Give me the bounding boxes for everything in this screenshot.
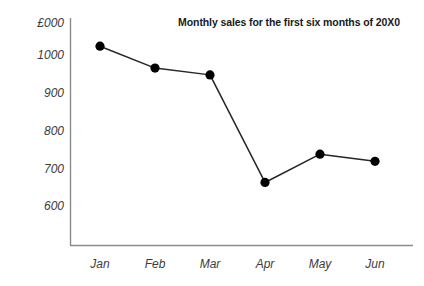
x-tick-label: May	[295, 257, 345, 271]
line-chart: Monthly sales for the first six months o…	[0, 0, 424, 286]
x-tick-label: Mar	[185, 257, 235, 271]
x-tick-label: Jan	[75, 257, 125, 271]
x-tick-label: Jun	[350, 257, 400, 271]
x-tick-label: Feb	[130, 257, 180, 271]
x-axis-labels: JanFebMarAprMayJun	[0, 0, 424, 286]
x-tick-label: Apr	[240, 257, 290, 271]
